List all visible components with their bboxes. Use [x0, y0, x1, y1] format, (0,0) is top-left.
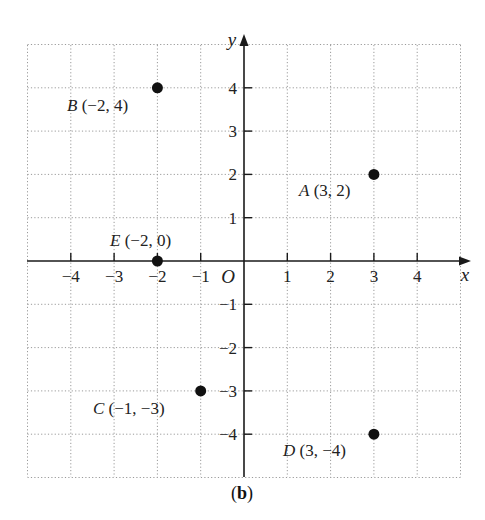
- x-tick-label: 3: [370, 267, 379, 286]
- point-e: [152, 256, 163, 267]
- x-tick-label: 1: [283, 267, 292, 286]
- point-c-coords: (−1, −3): [104, 399, 164, 418]
- y-tick-label: 4: [229, 79, 238, 98]
- point-e-label: E (−2, 0): [109, 231, 171, 250]
- y-tick-label: −2: [219, 339, 237, 358]
- x-tick-label: 2: [326, 267, 335, 286]
- y-axis: [240, 34, 249, 477]
- x-tick-label: −1: [192, 267, 210, 286]
- point-d-label: D (3, −4): [282, 441, 346, 460]
- y-tick-label: −1: [219, 295, 237, 314]
- point-d-coords: (3, −4): [295, 441, 346, 460]
- point-e-name: E: [109, 231, 121, 250]
- y-tick-label: 2: [229, 165, 238, 184]
- y-tick-label: 3: [229, 122, 238, 141]
- point-c-label: C (−1, −3): [93, 399, 165, 418]
- x-tick-label: −2: [148, 267, 166, 286]
- point-b-coords: (−2, 4): [77, 96, 128, 115]
- point-c: [195, 385, 206, 396]
- y-tick-label: −3: [219, 382, 237, 401]
- y-axis-arrow-icon: [240, 34, 249, 46]
- figure-caption: (b): [231, 483, 253, 504]
- y-tick-label: −4: [219, 425, 238, 444]
- point-b-name: B: [67, 96, 78, 115]
- x-tick-label: −4: [62, 267, 81, 286]
- point-d: [368, 429, 379, 440]
- x-axis-label: x: [460, 264, 470, 285]
- x-tick-labels: −4 −3 −2 −1 1 2 3 4: [62, 267, 422, 286]
- point-d-name: D: [282, 441, 296, 460]
- y-axis-label: y: [226, 29, 237, 50]
- coordinate-plane: −4 −3 −2 −1 1 2 3 4 4 3 2 1 −1 −2 −3 −4 …: [0, 0, 485, 520]
- x-tick-label: −3: [105, 267, 123, 286]
- x-axis: [27, 257, 471, 266]
- y-tick-label: 1: [229, 209, 238, 228]
- x-tick-label: 4: [413, 267, 422, 286]
- point-a-label: A (3, 2): [298, 181, 350, 200]
- point-c-name: C: [93, 399, 105, 418]
- point-b-label: B (−2, 4): [67, 96, 128, 115]
- point-e-coords: (−2, 0): [120, 231, 171, 250]
- origin-label: O: [221, 266, 235, 287]
- point-a: [368, 169, 379, 180]
- point-a-coords: (3, 2): [309, 181, 350, 200]
- point-a-name: A: [298, 181, 310, 200]
- point-b: [152, 82, 163, 93]
